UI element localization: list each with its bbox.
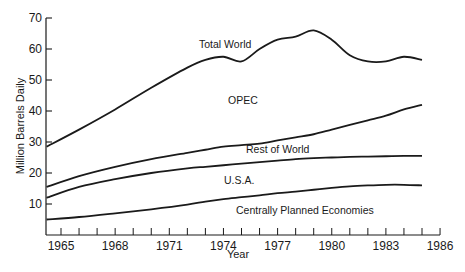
x-tick-label: 1986 xyxy=(427,239,454,253)
x-axis-title: Year xyxy=(227,248,250,260)
x-tick-label: 1965 xyxy=(48,239,75,253)
x-tick-label: 1980 xyxy=(318,239,345,253)
y-tick-label: 20 xyxy=(29,166,43,180)
label-total-world: Total World xyxy=(199,38,251,50)
label-opec: OPEC xyxy=(228,94,258,106)
x-tick-label: 1983 xyxy=(373,239,400,253)
y-tick-label: 70 xyxy=(29,11,43,25)
x-tick-label: 1977 xyxy=(264,239,291,253)
y-tick-label: 60 xyxy=(29,42,43,56)
y-tick-label: 40 xyxy=(29,104,43,118)
x-tick-label: 1971 xyxy=(156,239,183,253)
chart: 1020304050607019651968197119741977198019… xyxy=(0,0,465,272)
axes xyxy=(46,18,440,235)
y-tick-label: 10 xyxy=(29,197,43,211)
label-centrally-planned: Centrally Planned Economies xyxy=(236,204,374,216)
x-tick-label: 1968 xyxy=(102,239,129,253)
series-lines xyxy=(47,30,422,219)
label-rest-of-world: Rest of World xyxy=(246,143,310,155)
y-tick-label: 50 xyxy=(29,73,43,87)
y-axis-title: Million Barrels Daily xyxy=(14,77,26,174)
label-usa: U.S.A. xyxy=(224,174,254,186)
y-tick-label: 30 xyxy=(29,135,43,149)
